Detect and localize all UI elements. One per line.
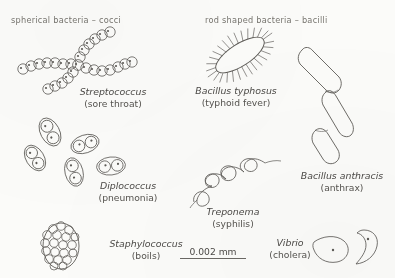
diplococcus-common-name: (pneumonia) — [78, 192, 178, 204]
bacillus-typhosus-illustration — [190, 26, 290, 84]
bacillus-typhosus-scientific-name: Bacillus typhosus — [180, 85, 292, 97]
label-treponema: Treponema (syphilis) — [186, 206, 280, 229]
bacteria-diagram-figure: spherical bacteria – cocci rod shaped ba… — [0, 0, 395, 278]
label-diplococcus: Diplococcus (pneumonia) — [78, 180, 178, 203]
scale-bar-label: 0.002 mm — [180, 246, 246, 257]
treponema-common-name: (syphilis) — [186, 218, 280, 230]
bacillus-typhosus-common-name: (typhoid fever) — [180, 97, 292, 109]
label-bacillus-typhosus: Bacillus typhosus (typhoid fever) — [180, 85, 292, 108]
section-header-cocci: spherical bacteria – cocci — [11, 15, 121, 25]
label-bacillus-anthracis: Bacillus anthracis (anthrax) — [292, 170, 392, 193]
streptococcus-scientific-name: Streptococcus — [60, 86, 166, 98]
label-vibrio: Vibrio (cholera) — [260, 237, 320, 260]
vibrio-illustration — [312, 228, 382, 274]
treponema-scientific-name: Treponema — [186, 206, 280, 218]
scale-bar: 0.002 mm — [180, 246, 246, 259]
bacillus-anthracis-illustration — [296, 40, 354, 168]
section-header-bacilli: rod shaped bacteria – bacilli — [205, 15, 328, 25]
label-streptococcus: Streptococcus (sore throat) — [60, 86, 166, 109]
diplococcus-scientific-name: Diplococcus — [78, 180, 178, 192]
diplococcus-illustration — [28, 128, 148, 188]
bacillus-anthracis-common-name: (anthrax) — [292, 182, 392, 194]
vibrio-scientific-name: Vibrio — [260, 237, 320, 249]
scale-bar-line — [180, 258, 246, 259]
streptococcus-common-name: (sore throat) — [60, 98, 166, 110]
bacillus-anthracis-scientific-name: Bacillus anthracis — [292, 170, 392, 182]
vibrio-common-name: (cholera) — [260, 249, 320, 261]
treponema-illustration — [190, 152, 295, 208]
staphylococcus-illustration — [36, 220, 86, 272]
